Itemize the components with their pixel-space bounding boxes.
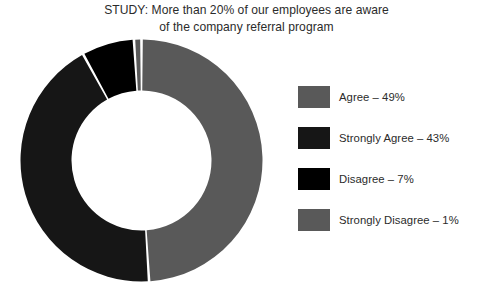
chart-legend: Agree – 49%Strongly Agree – 43%Disagree … [298,76,488,240]
legend-swatch [298,209,330,231]
chart-title: STUDY: More than 20% of our employees ar… [0,2,493,35]
legend-item: Disagree – 7% [298,158,488,199]
legend-item-label: Strongly Disagree – 1% [339,213,459,227]
legend-item: Agree – 49% [298,76,488,117]
legend-item: Strongly Agree – 43% [298,117,488,158]
legend-item-label: Strongly Agree – 43% [339,131,449,145]
donut-chart-plot-area [20,39,263,282]
legend-swatch [298,86,330,108]
legend-item-label: Agree – 49% [339,90,405,104]
donut-chart-svg [20,39,263,282]
donut-chart-figure: STUDY: More than 20% of our employees ar… [0,0,493,288]
donut-slice [135,40,141,91]
legend-swatch [298,168,330,190]
legend-swatch [298,127,330,149]
donut-slice-group [20,40,262,282]
legend-item: Strongly Disagree – 1% [298,199,488,240]
legend-item-label: Disagree – 7% [339,172,414,186]
donut-slice [142,40,262,282]
